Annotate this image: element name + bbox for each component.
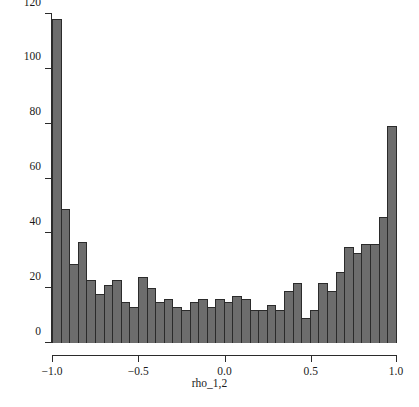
x-tick-label-neg1: −1.0 [42,366,63,378]
x-axis-title: rho_1,2 [0,377,419,389]
x-axis: −1.0 −0.5 0.0 0.5 1.0 [52,355,397,363]
y-tick-label-20: 20 [30,271,42,283]
y-tick-40 [45,232,52,233]
plot-area [52,14,397,343]
y-tick-100 [45,68,52,69]
x-tick-neg05 [138,355,139,362]
y-tick-label-0: 0 [35,326,41,338]
y-tick-0 [45,342,52,343]
y-tick-80 [45,123,52,124]
histogram-bars [52,14,397,343]
x-tick-label-0: 0.0 [217,366,231,378]
x-tick-05 [311,355,312,362]
y-axis: 0 20 40 60 80 100 120 [45,14,52,343]
x-tick-label-05: 0.5 [304,366,318,378]
y-tick-label-100: 100 [24,52,41,64]
x-tick-1 [396,355,397,362]
histogram-bar [387,126,397,343]
x-tick-0 [225,355,226,362]
x-tick-label-1: 1.0 [389,366,403,378]
y-tick-label-120: 120 [24,0,41,8]
x-tick-neg1 [52,355,53,362]
y-tick-label-40: 40 [30,216,42,228]
y-tick-120 [45,13,52,14]
y-tick-label-60: 60 [30,161,42,173]
histogram-figure: 0 20 40 60 80 100 120 −1.0 −0.5 0.0 0.5 … [0,0,419,407]
y-tick-label-80: 80 [30,106,42,118]
y-tick-20 [45,287,52,288]
x-tick-label-neg05: −0.5 [128,366,149,378]
y-tick-60 [45,178,52,179]
